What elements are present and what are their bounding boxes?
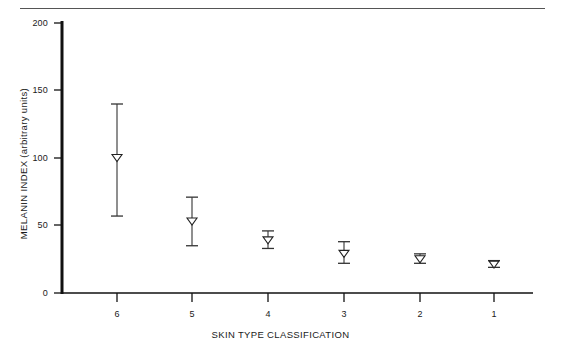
x-tick-label-3: 3 bbox=[341, 309, 346, 319]
data-point-skin-type-5 bbox=[186, 197, 198, 246]
y-tick-label-50: 50 bbox=[10, 220, 48, 230]
y-tick-label-150: 150 bbox=[10, 85, 48, 95]
data-point-skin-type-3 bbox=[338, 242, 350, 264]
chart-figure: 200 150 100 50 0 6 5 4 3 2 1 MELANIN IND… bbox=[0, 0, 561, 352]
y-tick-label-100: 100 bbox=[10, 153, 48, 163]
data-point-skin-type-4 bbox=[262, 231, 274, 249]
data-point-skin-type-6 bbox=[111, 104, 123, 216]
x-axis-title: SKIN TYPE CLASSIFICATION bbox=[0, 329, 561, 340]
y-tick-label-200: 200 bbox=[10, 18, 48, 28]
y-axis-title: MELANIN INDEX (arbitrary units) bbox=[18, 54, 29, 274]
x-tick-label-1: 1 bbox=[491, 309, 496, 319]
plot-area bbox=[0, 0, 561, 352]
x-tick-label-2: 2 bbox=[417, 309, 422, 319]
marker-open-down-triangle bbox=[415, 256, 425, 263]
data-point-skin-type-1 bbox=[488, 261, 500, 269]
x-tick-label-4: 4 bbox=[265, 309, 270, 319]
marker-open-down-triangle bbox=[187, 218, 197, 225]
data-series-melanin-index bbox=[111, 104, 500, 268]
x-tick-label-5: 5 bbox=[189, 309, 194, 319]
y-tick-label-0: 0 bbox=[10, 288, 48, 298]
x-tick-label-6: 6 bbox=[114, 309, 119, 319]
x-tick-marks bbox=[117, 293, 494, 302]
marker-open-down-triangle bbox=[112, 155, 122, 162]
marker-open-down-triangle bbox=[263, 237, 273, 244]
marker-open-down-triangle bbox=[339, 250, 349, 257]
data-point-skin-type-2 bbox=[414, 254, 426, 263]
